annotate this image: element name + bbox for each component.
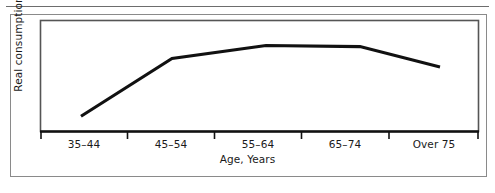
x-tick-label-45-54: 45–54	[131, 138, 211, 150]
x-tick-label-over-75: Over 75	[394, 138, 474, 150]
consumption-line-series	[81, 46, 440, 117]
x-tick-label-65-74: 65–74	[305, 138, 385, 150]
chart-container: Real consumption 35–44 45–54 55–64 65–74…	[0, 0, 495, 193]
x-tick-label-35-44: 35–44	[44, 138, 124, 150]
plot-frame	[41, 21, 479, 132]
x-tick-label-55-64: 55–64	[218, 138, 298, 150]
x-axis-title: Age, Years	[0, 153, 495, 165]
